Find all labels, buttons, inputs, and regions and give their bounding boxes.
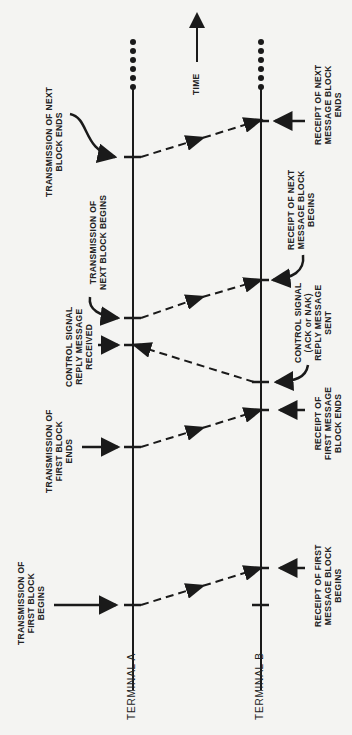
- label-ctrl-sent: CONTROL SIGNAL(ACK or NAK)REPLY MESSAGES…: [293, 282, 333, 363]
- continuation-dots-b: [258, 39, 264, 90]
- label-tx-next-begins: TRANSMISSION OFNEXT BLOCK BEGINS: [88, 195, 108, 290]
- label-rx-next-ends: RECEIPT OF NEXTMESSAGE BLOCKENDS: [313, 64, 343, 145]
- label-tx-first-ends: TRANSMISSION OFFIRST BLOCKENDS: [44, 409, 74, 493]
- pointer-tx-next-ends: [70, 114, 115, 157]
- pointer-ctrl-sent: [276, 365, 308, 382]
- label-rx-first-ends: RECEIPT OFFIRST MESSAGEBLOCK ENDS: [313, 387, 343, 460]
- time-label: TIME: [191, 73, 201, 95]
- pointer-rx-next-begins: [273, 255, 303, 280]
- terminal-a-label: TERMINAL A: [127, 653, 137, 720]
- msg-first-block-begin: [141, 570, 254, 605]
- label-tx-next-ends: TRANSMISSION OF NEXTBLOCK ENDS: [44, 87, 64, 197]
- label-tx-first-begins: TRANSMISSION OFFIRST BLOCKBEGINS: [16, 561, 46, 645]
- terminal-b-label: TERMINAL B: [255, 652, 265, 720]
- msg-control-reply: [141, 347, 254, 382]
- msg-first-block-end: [141, 412, 254, 447]
- continuation-dots-a: [130, 39, 136, 90]
- label-rx-first-begins: RECEIPT OF FIRSTMESSAGE BLOCKBEGINS: [313, 544, 343, 627]
- pointer-tx-next-begins: [90, 297, 118, 318]
- label-rx-next-begins: RECEIPT OF NEXTMESSAGE BLOCKBEGINS: [286, 169, 316, 250]
- label-ctrl-received: CONTROL SIGNALREPLY MESSAGERECEIVED: [64, 306, 94, 387]
- msg-next-block: [141, 122, 254, 157]
- msg-next-block-begin: [141, 282, 254, 318]
